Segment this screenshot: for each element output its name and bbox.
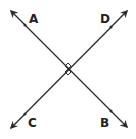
label-b: B — [100, 116, 109, 130]
label-c: C — [28, 116, 37, 130]
perpendicular-lines-diagram: A D C B — [0, 0, 136, 139]
point-b — [109, 109, 112, 112]
point-c — [23, 112, 26, 115]
label-a: A — [29, 12, 39, 26]
label-d: D — [100, 12, 110, 26]
point-a — [23, 23, 26, 26]
diagram-canvas: A D C B — [0, 0, 136, 139]
